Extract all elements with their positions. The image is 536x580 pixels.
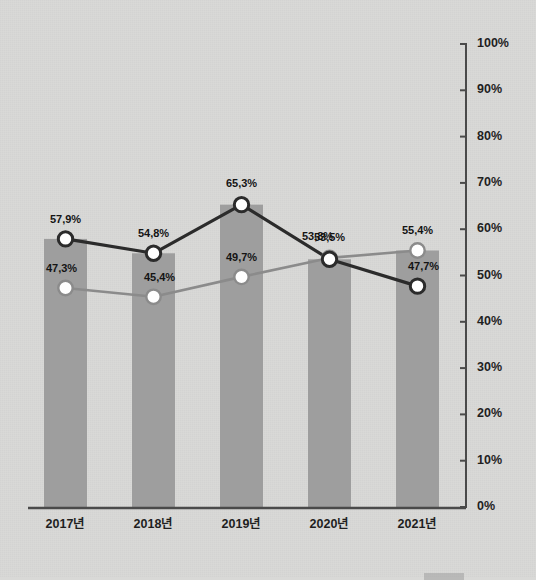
marker-dark-line-series-2018년 <box>146 246 160 260</box>
x-axis-label-2020년: 2020년 <box>286 513 374 532</box>
data-label-light-2020년: 53,8% <box>302 230 333 242</box>
data-label-light-2019년: 49,7% <box>226 251 257 263</box>
marker-dark-line-series-2019년 <box>234 197 248 211</box>
data-label-dark-2019년: 65,3% <box>226 177 257 189</box>
data-label-dark-2018년: 54,8% <box>138 227 169 239</box>
marker-light-line-series-2018년 <box>146 290 160 304</box>
x-axis-label-2018년: 2018년 <box>110 513 198 532</box>
marker-dark-line-series-2017년 <box>58 232 72 246</box>
y-axis-label-10%: 10% <box>477 453 502 467</box>
y-axis-label-40%: 40% <box>477 314 502 328</box>
y-axis-label-80%: 80% <box>477 129 502 143</box>
data-label-light-2021년: 55,4% <box>402 224 433 236</box>
chart-legend <box>424 573 470 580</box>
y-axis-label-100%: 100% <box>477 36 509 50</box>
marker-light-line-series-2019년 <box>234 270 248 284</box>
x-axis-label-2019년: 2019년 <box>198 513 286 532</box>
y-axis-label-70%: 70% <box>477 175 502 189</box>
y-axis-label-50%: 50% <box>477 268 502 282</box>
data-label-dark-2017년: 57,9% <box>50 213 81 225</box>
data-label-light-2017년: 47,3% <box>46 262 77 274</box>
bar-2020년 <box>308 259 351 507</box>
legend-swatch-bar <box>424 573 464 580</box>
y-axis-label-20%: 20% <box>477 406 502 420</box>
y-axis-label-0%: 0% <box>477 499 495 513</box>
x-axis-label-2017년: 2017년 <box>22 513 110 532</box>
x-axis-label-2021년: 2021년 <box>374 513 462 532</box>
data-label-dark-2021년: 47,7% <box>408 260 439 272</box>
marker-light-line-series-2017년 <box>58 281 72 295</box>
y-axis-label-60%: 60% <box>477 221 502 235</box>
marker-dark-line-series-2020년 <box>322 252 336 266</box>
marker-light-line-series-2021년 <box>410 243 424 257</box>
y-axis-label-30%: 30% <box>477 360 502 374</box>
y-axis-label-90%: 90% <box>477 82 502 96</box>
data-label-light-2018년: 45,4% <box>144 271 175 283</box>
marker-dark-line-series-2021년 <box>410 279 424 293</box>
bar-2017년 <box>44 239 87 507</box>
